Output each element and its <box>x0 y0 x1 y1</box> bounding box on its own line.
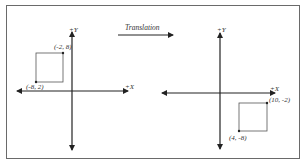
left-x-axis-label: +X <box>125 84 134 91</box>
left-bottom-left-coord: (-8, 2) <box>26 84 44 91</box>
right-x-axis-label: +X <box>270 86 279 93</box>
left-point-top-right <box>62 52 64 54</box>
left-coordinate-plane <box>17 32 128 150</box>
translation-label: Translation <box>125 24 160 32</box>
right-point-top-right <box>266 102 268 104</box>
right-square <box>239 103 267 131</box>
right-bottom-left-coord: (4, -8) <box>229 135 247 142</box>
right-coordinate-plane <box>162 33 275 149</box>
right-y-axis-label: +Y <box>217 27 226 34</box>
left-top-right-coord: (-2, 8) <box>54 44 72 51</box>
right-point-bottom-left <box>238 130 240 132</box>
left-y-axis-label: +Y <box>69 27 78 34</box>
right-top-right-coord: (10, -2) <box>269 97 290 104</box>
left-square <box>36 53 63 82</box>
